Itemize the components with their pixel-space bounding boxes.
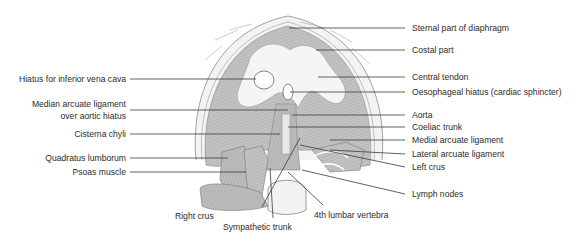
label-costal-part: Costal part bbox=[412, 45, 454, 55]
label-coeliac-trunk: Coeliac trunk bbox=[412, 122, 462, 132]
label-aorta: Aorta bbox=[412, 110, 433, 120]
label-lymph-nodes: Lymph nodes bbox=[412, 189, 463, 199]
label-quadratus-lumborum: Quadratus lumborum bbox=[45, 153, 126, 163]
label-left-crus: Left crus bbox=[412, 162, 445, 172]
label-lateral-arcuate-ligament: Lateral arcuate ligament bbox=[412, 149, 504, 159]
label-cisterna-chyli: Cisterna chyli bbox=[74, 129, 126, 139]
label-right-crus: Right crus bbox=[175, 211, 214, 221]
diaphragm-diagram: Hiatus for inferior vena cava Median arc… bbox=[0, 0, 572, 242]
label-sternal-part: Sternal part of diaphragm bbox=[412, 23, 509, 33]
label-oesophageal-hiatus: Oesophageal hiatus (cardiac sphincter) bbox=[412, 87, 562, 97]
label-sympathetic-trunk: Sympathetic trunk bbox=[223, 222, 292, 232]
diaphragm-illustration bbox=[0, 0, 572, 242]
label-ivc-hiatus: Hiatus for inferior vena cava bbox=[19, 74, 126, 84]
label-medial-arcuate-ligament: Medial arcuate ligament bbox=[412, 135, 503, 145]
label-4th-lumbar-vertebra: 4th lumbar vertebra bbox=[314, 210, 389, 220]
label-psoas-muscle: Psoas muscle bbox=[73, 167, 127, 177]
label-over-aortic-hiatus: over aortic hiatus bbox=[61, 111, 126, 121]
label-central-tendon: Central tendon bbox=[412, 72, 468, 82]
aorta bbox=[282, 114, 290, 154]
ivc-hiatus bbox=[254, 71, 274, 89]
label-median-arcuate-ligament: Median arcuate ligament bbox=[32, 99, 126, 109]
